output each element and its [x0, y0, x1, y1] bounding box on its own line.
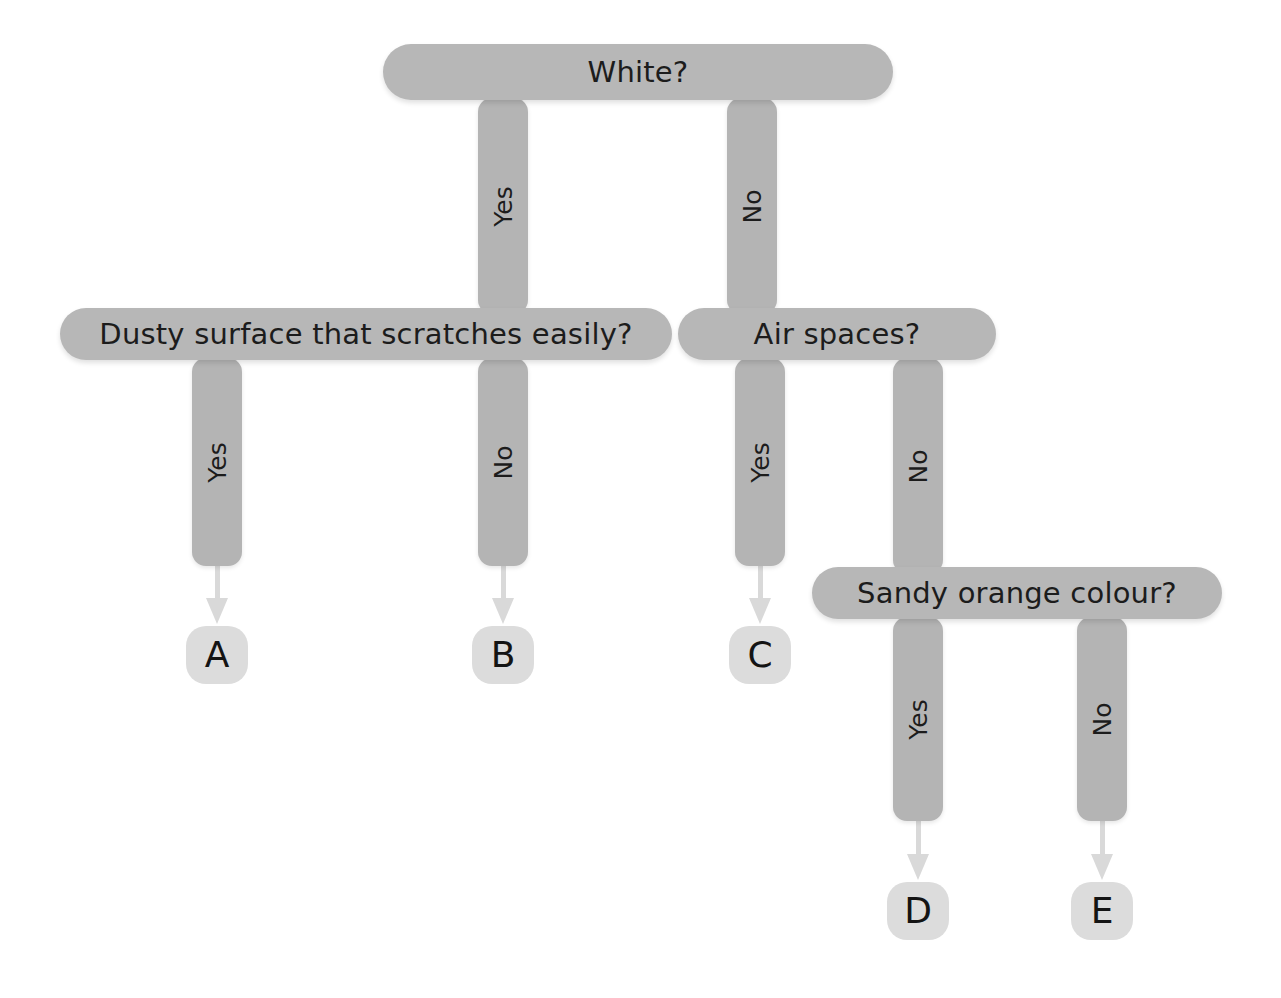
- connector-sandy-yes[interactable]: Yes: [893, 617, 943, 821]
- arrow-to-c: [735, 560, 785, 626]
- connector-sandy-no[interactable]: No: [1077, 617, 1127, 821]
- question-node-sandy-orange[interactable]: Sandy orange colour?: [812, 567, 1222, 619]
- question-node-white[interactable]: White?: [383, 44, 893, 100]
- connector-white-yes[interactable]: Yes: [478, 98, 528, 314]
- connector-dusty-yes[interactable]: Yes: [192, 358, 242, 566]
- connector-label: No: [906, 449, 931, 483]
- arrow-to-e: [1077, 816, 1127, 882]
- connector-white-no[interactable]: No: [727, 98, 777, 314]
- terminal-label: C: [747, 637, 772, 673]
- question-label: Air spaces?: [754, 320, 921, 349]
- question-node-dusty-surface[interactable]: Dusty surface that scratches easily?: [60, 308, 672, 360]
- connector-label: Yes: [204, 442, 229, 482]
- terminal-node-c[interactable]: C: [729, 626, 791, 684]
- arrow-to-a: [192, 560, 242, 626]
- terminal-label: B: [491, 637, 516, 673]
- terminal-node-d[interactable]: D: [887, 882, 949, 940]
- question-label: Dusty surface that scratches easily?: [99, 320, 632, 349]
- connector-label: No: [740, 189, 765, 223]
- terminal-label: D: [904, 893, 932, 929]
- terminal-label: E: [1091, 893, 1114, 929]
- question-label: Sandy orange colour?: [857, 579, 1177, 608]
- connector-label: Yes: [747, 442, 772, 482]
- connector-label: No: [491, 445, 516, 479]
- connector-air-spaces-no[interactable]: No: [893, 358, 943, 574]
- terminal-node-b[interactable]: B: [472, 626, 534, 684]
- decision-tree-diagram: White? Yes No Dusty surface that scratch…: [0, 0, 1281, 998]
- arrow-to-d: [893, 816, 943, 882]
- terminal-node-a[interactable]: A: [186, 626, 248, 684]
- question-node-air-spaces[interactable]: Air spaces?: [678, 308, 996, 360]
- arrow-to-b: [478, 560, 528, 626]
- terminal-node-e[interactable]: E: [1071, 882, 1133, 940]
- connector-label: Yes: [490, 186, 515, 226]
- question-label: White?: [588, 58, 689, 87]
- connector-label: Yes: [905, 699, 930, 739]
- connector-label: No: [1090, 702, 1115, 736]
- connector-dusty-no[interactable]: No: [478, 358, 528, 566]
- terminal-label: A: [205, 637, 230, 673]
- connector-air-spaces-yes[interactable]: Yes: [735, 358, 785, 566]
